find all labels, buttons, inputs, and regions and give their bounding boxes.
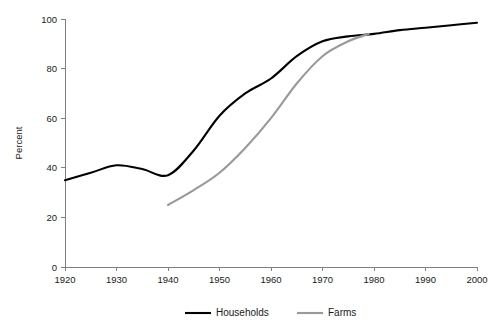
x-tick-label: 1980 xyxy=(363,274,384,285)
x-tick-label: 2000 xyxy=(466,274,487,285)
y-tick-label: 40 xyxy=(46,162,57,173)
y-tick-label: 60 xyxy=(46,113,57,124)
x-axis-group: 192019301940195019601970198019902000 xyxy=(54,267,487,285)
y-axis-title: Percent xyxy=(13,126,24,159)
x-tick-group: 192019301940195019601970198019902000 xyxy=(54,267,487,285)
line-chart: 020406080100 Percent 1920193019401950196… xyxy=(0,0,500,335)
series-line-households xyxy=(65,23,477,180)
x-tick-label: 1990 xyxy=(415,274,436,285)
legend-label-households: Households xyxy=(216,307,269,318)
chart-legend: HouseholdsFarms xyxy=(185,307,356,318)
legend-label-farms: Farms xyxy=(328,307,356,318)
x-tick-label: 1970 xyxy=(312,274,333,285)
series-group xyxy=(65,23,477,205)
x-tick-label: 1930 xyxy=(106,274,127,285)
y-tick-label: 80 xyxy=(46,63,57,74)
y-axis-group: 020406080100 Percent xyxy=(13,14,65,273)
y-tick-label: 100 xyxy=(41,14,57,25)
y-tick-group: 020406080100 xyxy=(41,14,65,273)
series-line-farms xyxy=(168,34,369,205)
y-tick-label: 0 xyxy=(52,262,57,273)
x-tick-label: 1920 xyxy=(54,274,75,285)
x-tick-label: 1960 xyxy=(260,274,281,285)
x-tick-label: 1950 xyxy=(209,274,230,285)
chart-container: 020406080100 Percent 1920193019401950196… xyxy=(0,0,500,335)
x-tick-label: 1940 xyxy=(157,274,178,285)
y-tick-label: 20 xyxy=(46,212,57,223)
